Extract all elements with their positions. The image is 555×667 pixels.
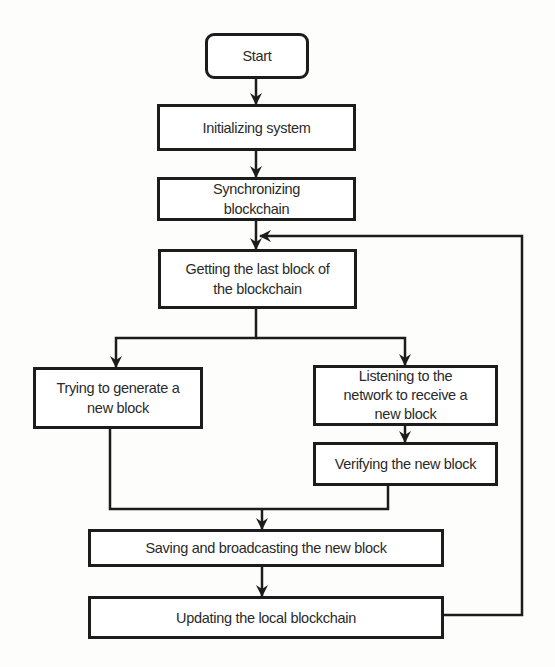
start-label: Start: [242, 46, 271, 66]
sync-label-line1: Synchronizing: [213, 179, 300, 199]
save-broadcast-node: Saving and broadcasting the new block: [88, 529, 444, 567]
verify-label: Verifying the new block: [335, 454, 476, 474]
init-label: Initializing system: [203, 118, 311, 138]
get-last-block-node: Getting the last block of the blockchain: [158, 249, 357, 309]
listen-label-line3: new block: [375, 405, 437, 424]
listen-label-line1: Listening to the: [359, 367, 453, 386]
sync-label-line2: blockchain: [224, 199, 290, 219]
generate-label-line1: Trying to generate a: [56, 378, 179, 398]
initializing-system-node: Initializing system: [157, 104, 356, 151]
verify-block-node: Verifying the new block: [313, 442, 498, 486]
update-label: Updating the local blockchain: [176, 608, 356, 628]
synchronizing-blockchain-node: Synchronizing blockchain: [157, 177, 356, 221]
update-local-blockchain-node: Updating the local blockchain: [88, 596, 444, 639]
edge-getlast-generate: [116, 308, 256, 367]
generate-block-node: Trying to generate a new block: [33, 367, 203, 429]
edge-getlast-listen: [256, 338, 405, 365]
listen-network-node: Listening to the network to receive a ne…: [313, 365, 498, 426]
getlast-label-line2: the blockchain: [213, 279, 302, 299]
save-label: Saving and broadcasting the new block: [145, 538, 386, 558]
start-node: Start: [205, 33, 309, 79]
generate-label-line2: new block: [87, 398, 149, 418]
getlast-label-line1: Getting the last block of: [185, 259, 329, 279]
flowchart: Start Initializing system Synchronizing …: [0, 0, 555, 667]
listen-label-line2: network to receive a: [344, 386, 468, 405]
